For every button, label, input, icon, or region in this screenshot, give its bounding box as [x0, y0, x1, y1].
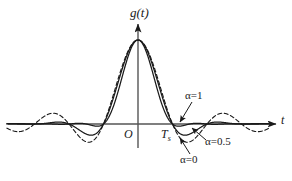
chart-canvas: [0, 0, 292, 181]
leader-arrow-alpha-0: [180, 138, 190, 154]
figure-raised-cosine-impulse-response: g(t) t O Ts α=1 α=0.5 α=0: [0, 0, 292, 181]
leader-arrow-alpha-05: [192, 128, 206, 140]
x-axis-label: t: [281, 114, 284, 126]
leader-arrow-alpha-1: [180, 102, 192, 122]
symbol-period-letter: T: [161, 127, 168, 141]
annotation-alpha-05: α=0.5: [205, 136, 231, 147]
y-axis-label: g(t): [130, 6, 149, 19]
origin-label: O: [124, 128, 133, 140]
annotation-alpha-0: α=0: [180, 154, 197, 165]
symbol-period-tick-label: Ts: [161, 128, 171, 143]
annotation-alpha-1: α=1: [185, 90, 202, 101]
symbol-period-subscript: s: [168, 134, 171, 143]
